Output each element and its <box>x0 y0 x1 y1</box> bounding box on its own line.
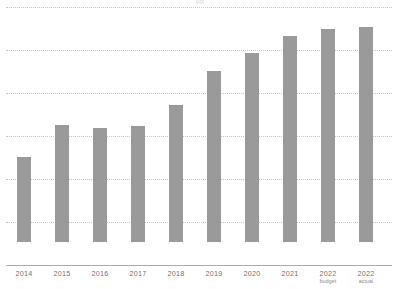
x-tick-label-year: 2020 <box>244 269 261 278</box>
x-axis-labels-group: 201420152016201720182019202020212022budg… <box>0 266 398 289</box>
x-tick-label-sublabel: actual <box>343 278 389 285</box>
x-tick-label-year: 2018 <box>168 269 185 278</box>
x-tick-label-year: 2022 <box>358 269 375 278</box>
x-tick-label-year: 2021 <box>282 269 299 278</box>
x-tick-label-year: 2015 <box>54 269 71 278</box>
bar[interactable] <box>55 125 69 242</box>
bar[interactable] <box>169 105 183 242</box>
x-tick-label-year: 2019 <box>206 269 223 278</box>
x-tick-label: 2022actual <box>343 269 389 285</box>
bar[interactable] <box>131 126 145 242</box>
bar[interactable] <box>321 29 335 242</box>
x-tick-label-year: 2014 <box>16 269 33 278</box>
x-tick-label-year: 2017 <box>130 269 147 278</box>
bars-group <box>0 0 398 266</box>
bar[interactable] <box>17 157 31 242</box>
x-tick-label-year: 2022 <box>320 269 337 278</box>
x-tick-label-year: 2016 <box>92 269 109 278</box>
bar-chart: 201420152016201720182019202020212022budg… <box>0 0 398 289</box>
bar[interactable] <box>93 128 107 242</box>
bar[interactable] <box>283 36 297 242</box>
bar[interactable] <box>245 53 259 242</box>
bar[interactable] <box>207 71 221 242</box>
bar[interactable] <box>359 27 373 242</box>
